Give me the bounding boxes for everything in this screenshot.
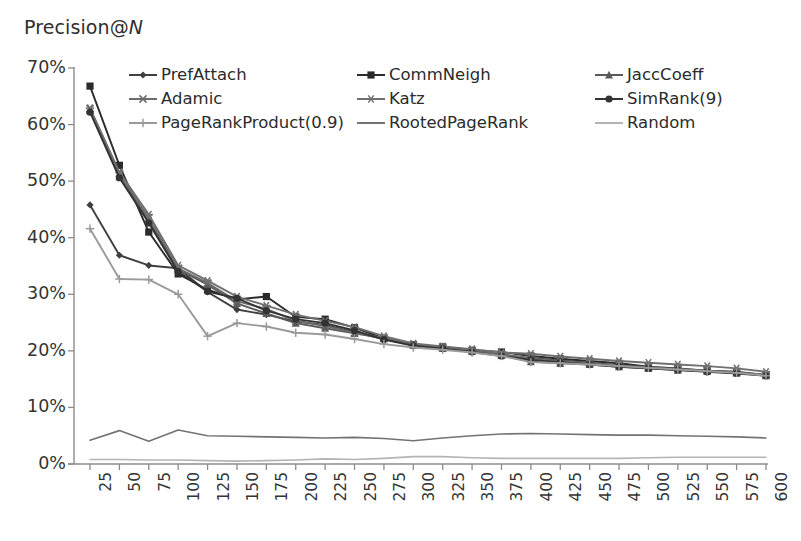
legend-label: Adamic	[161, 91, 222, 108]
x-tick-label: 575	[744, 472, 762, 502]
line-swatch-icon	[594, 116, 624, 130]
x-tick-label: 550	[714, 472, 732, 502]
x-tick-label: 600	[773, 472, 791, 502]
legend-label: Katz	[389, 91, 425, 108]
legend-label: JaccCoeff	[627, 67, 703, 84]
series-marker-diamond	[139, 71, 146, 78]
x-tick-label: 75	[156, 472, 174, 492]
x-tick-label: 325	[450, 472, 468, 502]
x-tick-label: 275	[391, 472, 409, 502]
line-swatch-icon	[356, 116, 386, 130]
precision-at-n-chart: Precision@N 70%60%50%40%30%20%10%0% 2550…	[0, 0, 801, 541]
cross-marker-icon	[128, 92, 158, 106]
series-marker-asterisk	[367, 95, 375, 102]
x-tick-label: 150	[244, 472, 262, 502]
series-marker-circle	[605, 95, 612, 102]
x-tick-label: 175	[273, 472, 291, 502]
legend-label: SimRank(9)	[627, 91, 723, 108]
x-tick-label: 200	[303, 472, 321, 502]
circle-marker-icon	[594, 92, 624, 106]
chart-legend: PrefAttachCommNeighJaccCoeffAdamicKatzSi…	[128, 63, 776, 135]
x-tick-label: 100	[185, 472, 203, 502]
x-tick-label: 300	[420, 472, 438, 502]
diamond-marker-icon	[128, 68, 158, 82]
legend-item-katz[interactable]: Katz	[356, 91, 594, 108]
triangle-marker-icon	[594, 68, 624, 82]
legend-item-random[interactable]: Random	[594, 115, 776, 132]
legend-label: PageRankProduct(0.9)	[161, 115, 344, 132]
plus-marker-icon	[128, 116, 158, 130]
square-marker-icon	[356, 68, 386, 82]
x-tick-label: 125	[215, 472, 233, 502]
legend-item-simrank-9[interactable]: SimRank(9)	[594, 91, 776, 108]
x-tick-label: 475	[626, 472, 644, 502]
series-marker-square	[367, 71, 374, 78]
x-tick-label: 400	[538, 472, 556, 502]
legend-label: CommNeigh	[389, 67, 491, 84]
x-tick-label: 500	[655, 472, 673, 502]
x-tick-label: 450	[597, 472, 615, 502]
legend-item-prefattach[interactable]: PrefAttach	[128, 67, 356, 84]
legend-label: Random	[627, 115, 695, 132]
series-marker-plus	[139, 119, 147, 127]
legend-item-pagerankproduct-0-9[interactable]: PageRankProduct(0.9)	[128, 115, 356, 132]
x-tick-label: 250	[362, 472, 380, 502]
x-tick-label: 375	[508, 472, 526, 502]
legend-label: RootedPageRank	[389, 115, 528, 132]
legend-item-commneigh[interactable]: CommNeigh	[356, 67, 594, 84]
x-tick-label: 425	[567, 472, 585, 502]
x-tick-label: 50	[126, 472, 144, 492]
legend-item-rootedpagerank[interactable]: RootedPageRank	[356, 115, 594, 132]
asterisk-marker-icon	[356, 92, 386, 106]
legend-item-jacccoeff[interactable]: JaccCoeff	[594, 67, 776, 84]
x-tick-label: 350	[479, 472, 497, 502]
x-tick-label: 525	[685, 472, 703, 502]
x-tick-label: 225	[332, 472, 350, 502]
legend-label: PrefAttach	[161, 67, 247, 84]
legend-item-adamic[interactable]: Adamic	[128, 91, 356, 108]
x-tick-label: 25	[97, 472, 115, 492]
